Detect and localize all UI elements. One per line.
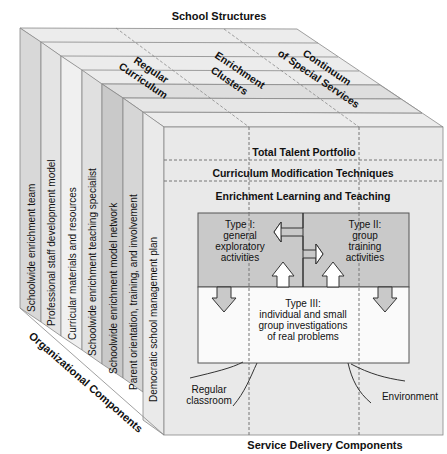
enrichment-model-cube: School Structures Service Delivery Compo… <box>0 0 447 454</box>
type1-line2: general <box>223 230 256 241</box>
type2-line4: activities <box>346 252 384 263</box>
type2-line2: group <box>352 230 378 241</box>
row-enrichment-learning: Enrichment Learning and Teaching <box>216 190 391 202</box>
org-label-1: Schoolwide enrichment team <box>26 184 37 312</box>
type3-line3: group investigations <box>259 320 348 331</box>
type2-line3: training <box>349 241 382 252</box>
label-regular-2: classroom <box>186 395 232 406</box>
org-label-3: Curricular materials and resources <box>67 187 78 340</box>
type2-line1: Type II: <box>349 219 382 230</box>
type2-label: Type II: group training activities <box>346 219 384 263</box>
org-label-6: Parent orientation, training, and involv… <box>128 194 139 390</box>
label-environment: Environment <box>382 391 438 402</box>
type3-line4: of real problems <box>267 331 339 342</box>
org-label-2: Professional staff development model <box>46 159 57 326</box>
type3-line1: Type III: <box>285 298 321 309</box>
type1-line3: exploratory <box>215 241 264 252</box>
type1-line1: Type I: <box>225 219 255 230</box>
type1-line4: activities <box>221 252 259 263</box>
org-label-7: Democratic school management plan <box>148 237 159 402</box>
row-total-talent-portfolio: Total Talent Portfolio <box>252 146 355 158</box>
org-label-5: Schoolwide enrichment model network <box>108 202 119 374</box>
title-school-structures: School Structures <box>172 10 267 22</box>
org-label-4: Schoolwide enrichment teaching specialis… <box>87 168 98 356</box>
row-curriculum-modification: Curriculum Modification Techniques <box>212 167 393 179</box>
type3-line2: individual and small <box>259 309 346 320</box>
label-regular-1: Regular <box>191 384 227 395</box>
title-service-delivery: Service Delivery Components <box>247 439 402 451</box>
